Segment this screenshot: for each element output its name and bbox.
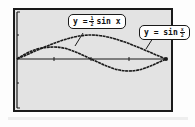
callout1-rhs: sin x: [96, 17, 120, 27]
bottom-shadow: [8, 117, 188, 120]
fraction-one-half: 1 2: [89, 16, 94, 27]
callout-sin-half-x: y = sin x 2: [139, 25, 190, 40]
callout1-lhs: y =: [73, 17, 87, 27]
callout-half-sin-x: y = 1 2 sin x: [68, 14, 126, 29]
callout1-pointer: [75, 33, 83, 46]
endpoint-marker: [164, 57, 168, 61]
fraction-x-over-2: x 2: [180, 27, 185, 38]
callout2-lhs: y = sin: [144, 28, 178, 38]
